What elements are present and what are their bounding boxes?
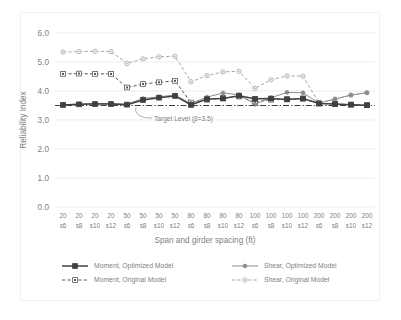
gridlines	[55, 33, 375, 207]
y-axis-tick-label: 0.0	[38, 203, 50, 212]
x-axis-span-label: 50	[171, 212, 179, 219]
x-axis-span-label: 50	[155, 212, 163, 219]
x-axis-spacing-label: s8	[140, 222, 147, 229]
data-point-marker-core	[126, 87, 128, 89]
y-axis-tick-label: 2.0	[38, 145, 50, 154]
data-point-marker	[221, 96, 226, 101]
legend-label: Shear, Original Model	[264, 276, 330, 284]
x-axis-tick-labels: 2020202050505050808080801001001001002002…	[59, 212, 372, 229]
data-point-marker	[243, 264, 247, 268]
data-point-marker-core	[78, 73, 80, 75]
x-axis-spacing-label: s10	[282, 222, 293, 229]
x-axis-spacing-label: s6	[124, 222, 131, 229]
data-point-marker-core	[174, 80, 176, 82]
x-axis-spacing-label: s6	[316, 222, 323, 229]
data-point-marker-core	[94, 73, 96, 75]
x-axis-spacing-label: s10	[218, 222, 229, 229]
data-point-marker-core	[190, 81, 192, 83]
x-axis-span-label: 100	[266, 212, 277, 219]
series-layer	[61, 49, 370, 108]
data-point-marker-core	[270, 79, 272, 81]
data-point-marker	[285, 97, 290, 102]
data-point-marker-core	[222, 71, 224, 73]
x-axis-span-label: 200	[330, 212, 341, 219]
data-point-marker	[333, 97, 337, 101]
data-point-marker-core	[158, 81, 160, 83]
legend-label: Moment, Optimized Model	[94, 262, 174, 270]
x-axis-spacing-label: s8	[76, 222, 83, 229]
data-point-marker-core	[302, 75, 304, 77]
data-point-marker-core	[244, 279, 246, 281]
data-point-marker	[61, 103, 66, 108]
x-axis-spacing-label: s12	[298, 222, 309, 229]
chart-legend: Moment, Optimized ModelMoment, Original …	[62, 262, 337, 284]
data-point-marker	[269, 96, 274, 101]
target-level-annotation: Target Level (β=3.5)	[154, 115, 213, 123]
data-point-marker	[157, 95, 162, 100]
legend-item[interactable]: Shear, Original Model	[232, 276, 330, 284]
data-point-marker-core	[142, 83, 144, 85]
data-point-marker	[125, 102, 130, 107]
x-axis-span-label: 200	[314, 212, 325, 219]
legend-item[interactable]: Moment, Original Model	[62, 276, 167, 284]
data-point-marker	[221, 91, 225, 95]
data-point-marker	[349, 93, 353, 97]
data-point-marker-core	[142, 58, 144, 60]
reliability-index-line-chart: 6.05.04.03.02.01.00.0 Reliability Index …	[0, 0, 401, 320]
data-point-marker-core	[110, 73, 112, 75]
y-axis-title: Reliability Index	[19, 91, 28, 148]
x-axis-span-label: 80	[187, 212, 195, 219]
data-point-marker-core	[254, 88, 256, 90]
y-axis-tick-label: 1.0	[38, 174, 50, 183]
data-point-marker	[141, 98, 146, 103]
data-point-marker	[349, 102, 354, 107]
data-point-marker	[73, 264, 78, 269]
x-axis-spacing-label: s8	[332, 222, 339, 229]
x-axis-spacing-label: s10	[154, 222, 165, 229]
x-axis-span-label: 100	[250, 212, 261, 219]
data-point-marker	[301, 96, 306, 101]
x-axis-span-label: 100	[282, 212, 293, 219]
x-axis-spacing-label: s12	[234, 222, 245, 229]
x-axis-spacing-label: s12	[106, 222, 117, 229]
y-axis-tick-label: 5.0	[38, 58, 50, 67]
data-point-marker-core	[286, 75, 288, 77]
data-point-marker-core	[174, 55, 176, 57]
data-point-marker-core	[126, 63, 128, 65]
x-axis-span-label: 200	[362, 212, 373, 219]
data-point-marker-core	[62, 73, 64, 75]
data-point-marker-core	[74, 279, 76, 281]
data-point-marker-core	[110, 51, 112, 53]
data-point-marker	[365, 91, 369, 95]
annotation-leader-line	[136, 107, 152, 118]
x-axis-span-label: 20	[75, 212, 83, 219]
data-point-marker	[253, 96, 258, 101]
series-line	[63, 74, 367, 106]
x-axis-span-label: 20	[107, 212, 115, 219]
x-axis-spacing-label: s6	[60, 222, 67, 229]
x-axis-span-label: 20	[91, 212, 99, 219]
x-axis-span-label: 50	[123, 212, 131, 219]
x-axis-span-label: 100	[298, 212, 309, 219]
legend-label: Moment, Original Model	[94, 276, 167, 284]
x-axis-spacing-label: s10	[90, 222, 101, 229]
x-axis-span-label: 200	[346, 212, 357, 219]
x-axis-title: Span and girder spacing (ft)	[154, 236, 255, 245]
x-axis-spacing-label: s10	[346, 222, 357, 229]
x-axis-spacing-label: s6	[188, 222, 195, 229]
data-point-marker-core	[62, 51, 64, 53]
y-axis-tick-label: 6.0	[38, 29, 50, 38]
legend-label: Shear, Optimized Model	[264, 262, 337, 270]
legend-item[interactable]: Moment, Optimized Model	[62, 262, 174, 270]
data-point-marker	[205, 97, 210, 102]
x-axis-spacing-label: s8	[204, 222, 211, 229]
y-axis-tick-labels: 6.05.04.03.02.01.00.0	[38, 29, 50, 212]
x-axis-spacing-label: s8	[268, 222, 275, 229]
data-point-marker	[237, 93, 242, 98]
x-axis-spacing-label: s12	[170, 222, 181, 229]
data-point-marker-core	[158, 56, 160, 58]
data-point-marker	[189, 103, 194, 108]
x-axis-spacing-label: s6	[252, 222, 259, 229]
series-3	[61, 49, 369, 105]
legend-item[interactable]: Shear, Optimized Model	[232, 262, 337, 270]
